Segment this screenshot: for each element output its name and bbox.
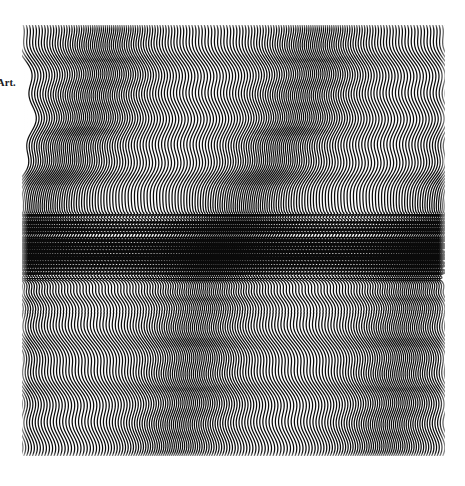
page-canvas: Art.: [0, 0, 465, 486]
artwork-plate: [22, 25, 445, 456]
caption-text: Art.: [0, 78, 16, 89]
op-art-wave-field: [22, 25, 445, 456]
